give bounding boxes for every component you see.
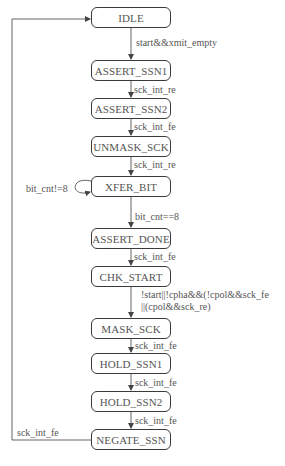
transition-label-negate-ssn-to-idle: sck_int_fe <box>17 427 59 439</box>
transition-label-chk-start-to-mask-sck-line1: !start||!cpha&&(!cpol&&sck_fe <box>141 289 269 301</box>
transition-label-unmask-sck-to-xfer-bit: sck_int_re <box>134 159 176 171</box>
state-chk-start: CHK_START <box>91 266 171 287</box>
state-assert-done: ASSERT_DONE <box>91 228 171 249</box>
state-idle: IDLE <box>91 7 171 28</box>
state-hold-ssn2: HOLD_SSN2 <box>91 391 171 412</box>
state-assert-ssn1: ASSERT_SSN1 <box>91 60 171 81</box>
state-negate-ssn: NEGATE_SSN <box>91 429 171 450</box>
state-unmask-sck: UNMASK_SCK <box>91 136 171 157</box>
transition-label-assert-ssn2-to-unmask-sck: sck_int_fe <box>134 121 176 133</box>
transition-label-hold-ssn1-to-hold-ssn2: sck_int_fe <box>135 377 177 389</box>
state-hold-ssn1: HOLD_SSN1 <box>91 353 171 374</box>
transition-label-assert-done-to-chk-start: sck_int_fe <box>134 251 176 263</box>
transition-label-mask-sck-to-hold-ssn1: sck_int_fe <box>135 340 177 352</box>
state-xfer-bit: XFER_BIT <box>91 176 171 197</box>
transition-label-xfer-bit-self-loop: bit_cnt!=8 <box>26 183 68 195</box>
transition-label-xfer-bit-to-assert-done: bit_cnt==8 <box>135 211 179 223</box>
state-assert-ssn2: ASSERT_SSN2 <box>91 98 171 119</box>
transition-label-hold-ssn2-to-negate-ssn: sck_int_fe <box>135 415 177 427</box>
transition-label-idle-to-assert-ssn1: start&&xmit_empty <box>136 37 217 49</box>
transition-label-chk-start-to-mask-sck-line2: ||(cpol&&sck_re) <box>141 301 211 313</box>
state-mask-sck: MASK_SCK <box>91 318 171 339</box>
transition-label-assert-ssn1-to-assert-ssn2: sck_int_re <box>134 84 176 96</box>
